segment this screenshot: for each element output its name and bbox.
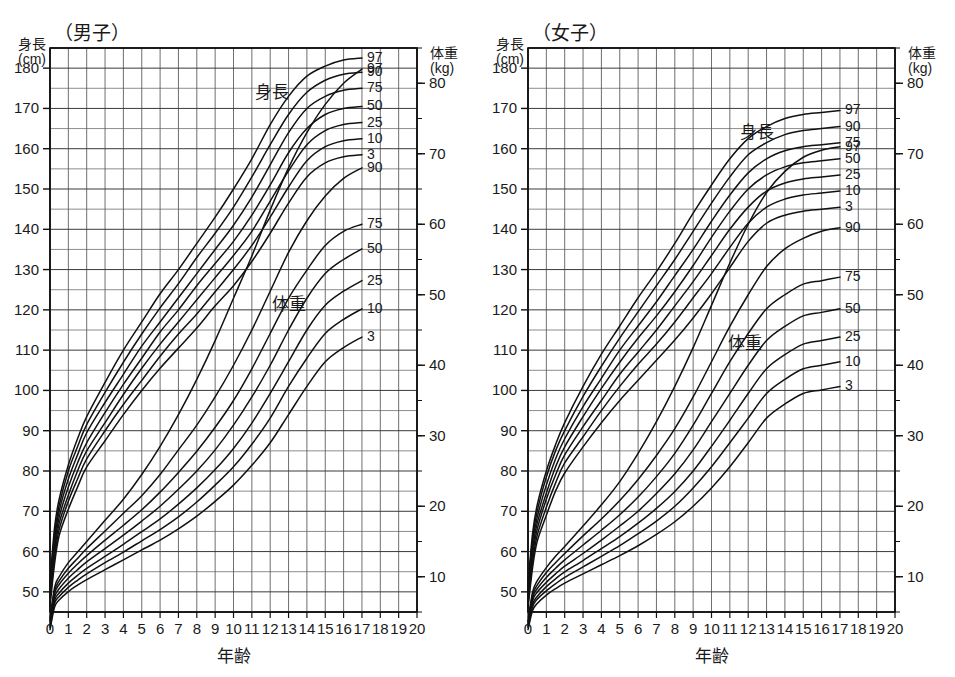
height-tick-110: 110	[483, 341, 517, 358]
weight-tick-70: 70	[907, 145, 941, 162]
panel-boys: （男子）身長(cm)体重(kg)979075502510397907550251…	[0, 0, 478, 677]
height-tick-60: 60	[483, 543, 517, 560]
percentile-label-weight-75: 75	[367, 215, 383, 231]
weight-tick-40: 40	[429, 356, 463, 373]
height-series-label-boys: 身長	[255, 78, 289, 103]
curve-身長-75	[50, 88, 362, 590]
height-tick-150: 150	[483, 180, 517, 197]
height-tick-100: 100	[483, 381, 517, 398]
percentile-label-weight-90: 90	[845, 219, 861, 235]
weight-tick-50: 50	[907, 286, 941, 303]
height-tick-150: 150	[5, 180, 39, 197]
growth-chart-figure: （男子）身長(cm)体重(kg)979075502510397907550251…	[0, 0, 955, 677]
age-tick-20: 20	[883, 620, 907, 637]
percentile-label-height-25: 25	[367, 114, 383, 130]
percentile-label-weight-10: 10	[367, 300, 383, 316]
percentile-label-height-10: 10	[367, 130, 383, 146]
curve-体重-25	[528, 337, 840, 626]
height-tick-90: 90	[5, 422, 39, 439]
weight-series-label-girls: 体重	[728, 329, 762, 354]
height-tick-160: 160	[5, 140, 39, 157]
height-tick-180: 180	[483, 59, 517, 76]
percentile-label-weight-90: 90	[367, 159, 383, 175]
weight-series-label-boys: 体重	[272, 290, 306, 315]
weight-tick-40: 40	[907, 356, 941, 373]
age-tick-20: 20	[405, 620, 429, 637]
weight-tick-60: 60	[429, 215, 463, 232]
height-tick-120: 120	[5, 301, 39, 318]
percentile-label-weight-3: 3	[845, 377, 853, 393]
height-tick-50: 50	[483, 583, 517, 600]
percentile-label-weight-97: 97	[367, 60, 383, 76]
curve-体重-97	[528, 147, 840, 621]
curve-体重-97	[50, 69, 362, 619]
height-tick-100: 100	[5, 381, 39, 398]
percentile-label-weight-50: 50	[367, 240, 383, 256]
curve-身長-50	[528, 159, 840, 596]
percentile-label-height-50: 50	[367, 97, 383, 113]
height-tick-50: 50	[5, 583, 39, 600]
plot-area-girls	[478, 0, 955, 677]
curve-身長-3	[528, 207, 840, 608]
percentile-label-weight-3: 3	[367, 328, 375, 344]
height-tick-80: 80	[483, 462, 517, 479]
height-tick-170: 170	[483, 99, 517, 116]
height-tick-70: 70	[5, 502, 39, 519]
curve-体重-3	[528, 386, 840, 629]
percentile-label-height-97: 97	[845, 101, 861, 117]
height-tick-110: 110	[5, 341, 39, 358]
percentile-label-weight-50: 50	[845, 300, 861, 316]
x-axis-title-girls: 年齢	[672, 642, 752, 667]
percentile-label-height-10: 10	[845, 182, 861, 198]
height-tick-130: 130	[5, 261, 39, 278]
height-series-label-girls: 身長	[740, 118, 774, 143]
percentile-label-weight-10: 10	[845, 353, 861, 369]
height-tick-90: 90	[483, 422, 517, 439]
weight-tick-30: 30	[907, 427, 941, 444]
plot-area-boys	[0, 0, 478, 677]
weight-tick-50: 50	[429, 286, 463, 303]
weight-tick-80: 80	[907, 74, 941, 91]
weight-tick-30: 30	[429, 427, 463, 444]
panel-girls: （女子）身長(cm)体重(kg)979075502510397907550251…	[478, 0, 955, 677]
percentile-label-weight-75: 75	[845, 268, 861, 284]
percentile-label-height-75: 75	[367, 79, 383, 95]
height-tick-160: 160	[483, 140, 517, 157]
height-tick-120: 120	[483, 301, 517, 318]
curve-身長-90	[528, 127, 840, 588]
curve-体重-10	[50, 309, 362, 628]
percentile-label-weight-25: 25	[367, 272, 383, 288]
height-tick-60: 60	[5, 543, 39, 560]
height-tick-140: 140	[483, 220, 517, 237]
weight-tick-60: 60	[907, 215, 941, 232]
height-tick-70: 70	[483, 502, 517, 519]
percentile-label-height-3: 3	[845, 198, 853, 214]
percentile-label-weight-97: 97	[845, 138, 861, 154]
x-axis-title-boys: 年齢	[194, 642, 274, 667]
curve-身長-10	[528, 191, 840, 604]
weight-tick-20: 20	[429, 497, 463, 514]
weight-tick-20: 20	[907, 497, 941, 514]
weight-tick-10: 10	[429, 568, 463, 585]
height-tick-180: 180	[5, 59, 39, 76]
percentile-label-height-90: 90	[845, 118, 861, 134]
percentile-label-height-25: 25	[845, 166, 861, 182]
weight-tick-10: 10	[907, 568, 941, 585]
curve-体重-90	[50, 168, 362, 621]
height-tick-130: 130	[483, 261, 517, 278]
height-tick-80: 80	[5, 462, 39, 479]
weight-tick-70: 70	[429, 145, 463, 162]
curves-boys	[50, 58, 362, 630]
percentile-label-weight-25: 25	[845, 328, 861, 344]
height-tick-170: 170	[5, 99, 39, 116]
height-tick-140: 140	[5, 220, 39, 237]
curve-体重-90	[528, 228, 840, 622]
curve-体重-3	[50, 337, 362, 630]
weight-tick-80: 80	[429, 74, 463, 91]
